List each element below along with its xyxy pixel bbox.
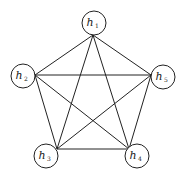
node-h4: h4 — [125, 144, 149, 168]
edge-h2-h3 — [35, 75, 57, 149]
node-h2: h2 — [11, 64, 35, 88]
edge-h1-h4 — [93, 35, 129, 149]
node-h3: h3 — [34, 144, 58, 168]
edge-h4-h5 — [129, 75, 151, 149]
nodes-group: h1h2h5h3h4 — [11, 11, 175, 168]
node-label: h — [86, 16, 93, 29]
node-h5: h5 — [151, 65, 175, 89]
complete-graph-svg: h1h2h5h3h4 — [0, 0, 185, 183]
edge-h2-h4 — [35, 75, 129, 149]
node-subscript: 1 — [95, 22, 99, 29]
node-h1: h1 — [82, 11, 106, 35]
edges-group — [35, 35, 151, 149]
edge-h1-h2 — [35, 35, 93, 75]
node-label: h — [129, 149, 136, 162]
edge-h1-h3 — [57, 35, 93, 149]
node-subscript: 5 — [164, 76, 168, 83]
graph-diagram: h1h2h5h3h4 — [0, 0, 185, 183]
node-subscript: 2 — [24, 75, 28, 82]
edge-h3-h5 — [57, 75, 151, 149]
node-label: h — [38, 149, 45, 162]
node-subscript: 3 — [47, 155, 51, 162]
node-label: h — [15, 69, 22, 82]
node-subscript: 4 — [138, 155, 142, 162]
node-label: h — [155, 70, 162, 83]
edge-h1-h5 — [93, 35, 151, 75]
